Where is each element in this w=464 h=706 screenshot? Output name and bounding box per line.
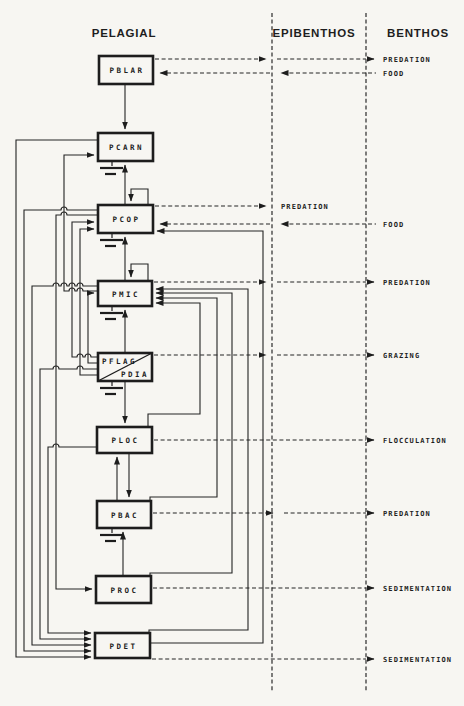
label-food-pcop: FOOD <box>383 221 404 229</box>
flow-pcop-to-proc <box>56 212 98 589</box>
ecosystem-flow-diagram: PELAGIAL EPIBENTHOS BENTHOS <box>0 0 464 706</box>
box-label-pflag: PFLAG <box>102 357 137 366</box>
flow-ploc-to-pdet <box>48 444 97 633</box>
flow-pflag-to-pdet <box>40 366 98 639</box>
label-predation-pcop: PREDATION <box>281 203 329 211</box>
flow-pbac-to-pmic <box>150 298 217 502</box>
dashed-flow-lines <box>152 59 376 659</box>
box-label-pcarn: PCARN <box>109 143 144 152</box>
ground-pcop <box>100 233 123 246</box>
flow-pdia-to-pcop <box>80 229 98 375</box>
box-label-pdia: PDIA <box>121 370 149 379</box>
ground-pbac <box>100 528 123 541</box>
flow-pcarn-to-pdet <box>16 140 98 657</box>
box-label-pblar: PBLAR <box>109 66 144 75</box>
box-label-ploc: PLOC <box>111 436 139 445</box>
flow-ploc-to-pmic <box>148 303 200 428</box>
self-loop-pmic <box>131 264 148 281</box>
label-sedimentation-proc: SEDIMENTATION <box>383 585 452 593</box>
ground-pcarn <box>100 161 123 174</box>
right-feedback-lines <box>148 231 263 643</box>
label-flocculation: FLOCCULATION <box>383 437 447 445</box>
label-grazing: GRAZING <box>383 352 420 360</box>
column-header-pelagial: PELAGIAL <box>92 27 157 39</box>
box-label-pbac: PBAC <box>111 511 139 520</box>
flow-pcop-to-pdet <box>24 207 98 651</box>
diagram-canvas: PELAGIAL EPIBENTHOS BENTHOS <box>0 0 464 706</box>
ground-pmic <box>100 306 123 319</box>
label-predation-pbac: PREDATION <box>383 510 431 518</box>
flow-pdet-to-pmic <box>149 289 248 634</box>
label-food-pblar: FOOD <box>383 70 404 78</box>
column-header-epibenthos: EPIBENTHOS <box>273 27 356 39</box>
flow-pflag-to-pcop <box>72 222 98 357</box>
label-sedimentation-pdet: SEDIMENTATION <box>383 656 452 664</box>
self-loop-pcop <box>131 189 148 205</box>
flow-pmic-to-pcarn <box>64 155 98 291</box>
flow-proc-to-pmic <box>150 293 232 577</box>
flow-pflag-to-pmic <box>88 293 98 363</box>
column-header-benthos: BENTHOS <box>387 27 449 39</box>
box-label-pmic: PMIC <box>112 290 140 299</box>
left-feedback-lines <box>16 140 98 657</box>
label-predation-pblar: PREDATION <box>383 56 431 64</box>
state-boxes: PBLAR PCARN PCOP PMIC PFLAG PDIA PLOC PB… <box>95 56 153 658</box>
label-predation-pmic: PREDATION <box>383 279 431 287</box>
ground-pflag <box>100 381 123 394</box>
box-label-pdet: PDET <box>109 642 137 651</box>
box-label-pcop: PCOP <box>112 215 140 224</box>
box-label-proc: PROC <box>110 586 138 595</box>
